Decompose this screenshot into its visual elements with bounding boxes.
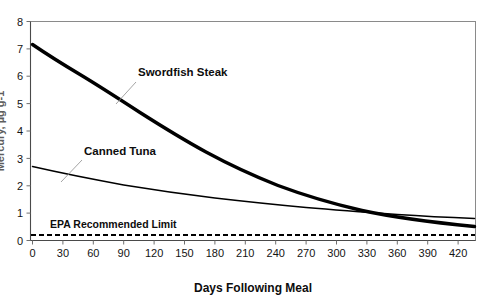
plot-area-frame [31,22,476,241]
x-tick-label-300: 300 [327,247,345,259]
x-tick-label-120: 120 [145,247,163,259]
mercury-decay-chart: 8 7 6 5 4 3 2 1 0 Mercury, µg g-1 [0,0,497,307]
x-tick-label-60: 60 [87,247,99,259]
chart-canvas: 8 7 6 5 4 3 2 1 0 Mercury, µg g-1 [0,0,497,307]
y-tick-label-7: 7 [17,43,23,55]
x-tick-label-270: 270 [297,247,315,259]
annotation-swordfish-steak: Swordfish Steak [138,66,228,78]
x-axis-ticks: 0 30 60 90 120 150 180 210 240 270 300 3… [29,241,467,260]
y-tick-label-5: 5 [17,98,23,110]
x-tick-label-150: 150 [175,247,193,259]
y-tick-label-6: 6 [17,70,23,82]
y-tick-label-4: 4 [17,125,23,137]
x-tick-label-240: 240 [267,247,285,259]
x-tick-label-210: 210 [236,247,254,259]
x-tick-label-30: 30 [57,247,69,259]
x-tick-label-330: 330 [358,247,376,259]
x-tick-label-420: 420 [449,247,467,259]
annotation-epa-limit: EPA Recommended Limit [50,218,177,230]
x-tick-label-360: 360 [388,247,406,259]
x-tick-label-0: 0 [29,247,35,259]
annotation-canned-tuna: Canned Tuna [84,145,157,157]
x-axis-title: Days Following Meal [194,281,312,295]
y-tick-label-8: 8 [17,16,23,28]
x-tick-label-90: 90 [118,247,130,259]
y-tick-label-0: 0 [17,235,23,247]
x-tick-label-390: 390 [419,247,437,259]
y-tick-label-3: 3 [17,153,23,165]
y-tick-label-1: 1 [17,207,23,219]
y-tick-label-2: 2 [17,180,23,192]
x-tick-label-180: 180 [206,247,224,259]
y-axis-title: Mercury, µg g-1 [0,91,6,172]
y-axis-ticks: 8 7 6 5 4 3 2 1 0 [17,16,31,247]
